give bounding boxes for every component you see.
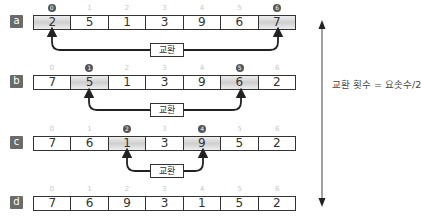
- swap-arrow-b: [89, 93, 150, 110]
- swap-label-c: 교환: [150, 164, 184, 178]
- swap-count-formula: 교환 횟수 = 요솟수/2: [332, 77, 421, 91]
- swap-arrow-a: [52, 32, 150, 50]
- swap-arrow-c: [127, 153, 150, 171]
- swap-label-b: 교환: [150, 103, 184, 117]
- swap-label-a: 교환: [150, 43, 184, 57]
